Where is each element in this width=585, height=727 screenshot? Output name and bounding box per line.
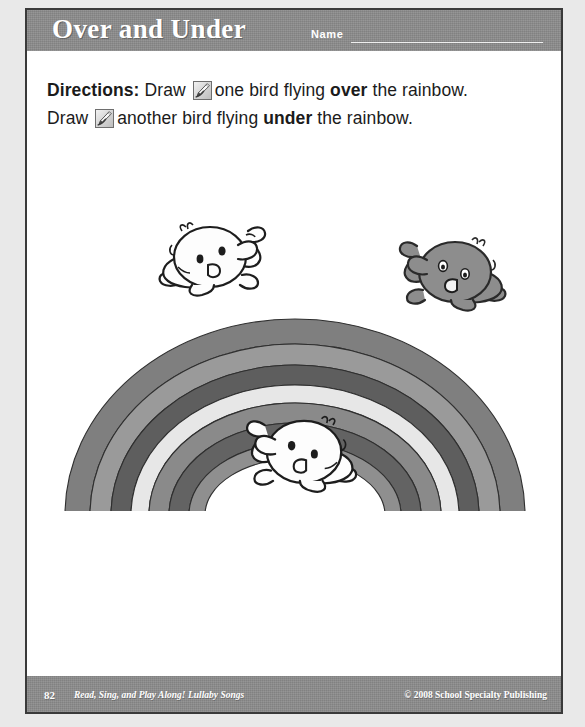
footer-banner: 82 Read, Sing, and Play Along! Lullaby S… — [27, 676, 561, 712]
header-banner: Over and Under Name — [27, 10, 561, 51]
directions-line2-tail: the rainbow. — [312, 108, 413, 128]
directions-line-1: Directions: Draw one bird flying over th… — [47, 76, 547, 104]
directions-line1-prefix: Draw — [140, 80, 191, 100]
page-title: Over and Under — [52, 14, 246, 45]
directions-line1-emphasis: over — [330, 80, 367, 100]
directions-text: Directions: Draw one bird flying over th… — [47, 76, 547, 132]
pencil-draw-icon — [95, 109, 114, 128]
bird-over-right — [395, 230, 513, 322]
directions-line1-middle: one bird flying — [215, 80, 330, 100]
name-label: Name — [311, 28, 343, 40]
page-sheet: Over and Under Name Directions: Draw one… — [25, 8, 563, 714]
directions-line2-prefix: Draw — [47, 108, 93, 128]
bird-over-left — [152, 215, 270, 307]
footer-book-title: Read, Sing, and Play Along! Lullaby Song… — [74, 690, 244, 700]
name-write-line[interactable] — [351, 42, 543, 43]
directions-line-2: Draw another bird flying under the rainb… — [47, 104, 547, 132]
name-field-group[interactable]: Name — [311, 28, 543, 48]
worksheet-page: Over and Under Name Directions: Draw one… — [0, 0, 585, 727]
artwork-area — [27, 130, 561, 660]
directions-line1-tail: the rainbow. — [367, 80, 468, 100]
directions-label: Directions: — [47, 80, 140, 100]
directions-line2-emphasis: under — [263, 108, 312, 128]
directions-line2-middle: another bird flying — [117, 108, 263, 128]
footer-page-number: 82 — [44, 689, 55, 701]
footer-copyright: © 2008 School Specialty Publishing — [404, 690, 547, 700]
bird-under — [242, 408, 364, 504]
pencil-draw-icon — [193, 81, 212, 100]
